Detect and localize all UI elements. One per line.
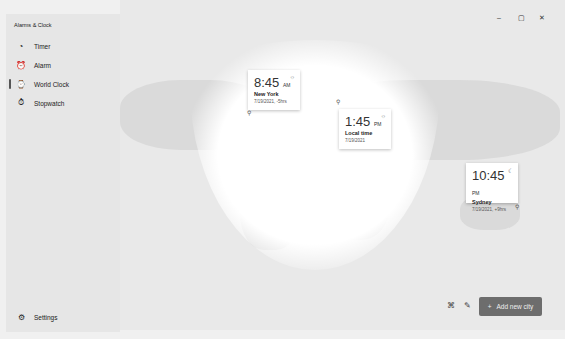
moon-icon: ☾ [508, 167, 513, 174]
edit-button[interactable]: ✎ [464, 301, 471, 310]
nav-world-clock[interactable]: ⌚World Clock [6, 75, 120, 93]
nav-settings[interactable]: ⚙Settings [6, 308, 120, 326]
clock-card-sydney[interactable]: 10:45 PM Sydney 7/19/2021, +9hrs ☾ [466, 163, 518, 203]
close-button[interactable]: ✕ [539, 14, 545, 22]
app-window: Alarms & Clock ◔Timer ⏰Alarm ⌚World Cloc… [0, 0, 565, 339]
nav-stopwatch[interactable]: ⏱Stopwatch [6, 94, 120, 112]
nav-alarm[interactable]: ⏰Alarm [6, 56, 120, 74]
maximize-button[interactable]: ▢ [518, 14, 525, 22]
compare-button[interactable]: ⌘ [447, 301, 455, 310]
sidebar: Alarms & Clock ◔Timer ⏰Alarm ⌚World Cloc… [6, 14, 120, 332]
gear-icon: ⚙ [16, 313, 26, 322]
alarm-icon: ⏰ [16, 61, 26, 70]
minimize-button[interactable]: – [497, 14, 501, 21]
pin-icon: ⚲ [336, 98, 340, 105]
nav-timer[interactable]: ◔Timer [6, 37, 120, 55]
pin-icon: ⚲ [515, 203, 519, 210]
clock-card-new-york[interactable]: 8:45 AM New York 7/19/2021, -5hrs ☼ [248, 70, 300, 110]
world-clock-icon: ⌚ [16, 80, 26, 89]
stopwatch-icon: ⏱ [16, 98, 26, 108]
add-new-city-button[interactable]: +Add new city [479, 297, 542, 316]
timer-icon: ◔ [16, 42, 26, 51]
app-title: Alarms & Clock [14, 22, 52, 28]
daylight-region [190, 40, 440, 270]
clock-card-local[interactable]: 1:45 PM Local time 7/19/2021 ☼ [339, 109, 391, 149]
sun-icon: ☼ [290, 74, 296, 80]
pin-icon: ⚲ [247, 109, 251, 116]
sun-icon: ☼ [381, 113, 387, 119]
